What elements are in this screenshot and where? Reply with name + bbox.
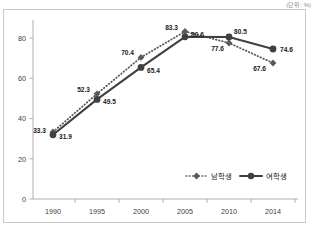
chart-frame [3, 9, 306, 223]
chart-screenshot: (단위: %) 80 60 40 20 0 1990 1995 2000 200… [0, 0, 315, 230]
unit-note: (단위: %) [286, 0, 311, 9]
